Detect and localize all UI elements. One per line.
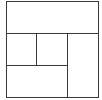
divider-vertical-right <box>67 33 68 98</box>
divider-horizontal-middle <box>6 65 68 66</box>
divider-horizontal-top <box>6 33 99 34</box>
divider-vertical-left <box>36 33 37 66</box>
outer-right-edge <box>98 1 99 98</box>
outer-bottom-edge <box>6 97 99 98</box>
outer-left-edge <box>6 1 7 98</box>
outer-top-edge <box>6 1 99 2</box>
